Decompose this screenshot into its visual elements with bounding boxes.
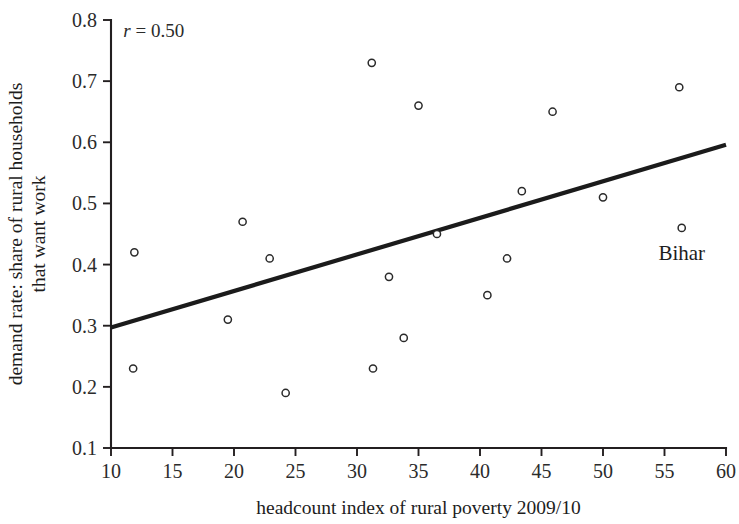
- data-point-4: [266, 255, 273, 262]
- x-tick-label-3: 25: [286, 460, 306, 482]
- data-point-labels: Bihar: [658, 241, 705, 265]
- y-tick-label-4: 0.5: [72, 192, 97, 214]
- data-point-8: [385, 273, 392, 280]
- x-tick-label-8: 50: [593, 460, 613, 482]
- y-tick-label-3: 0.4: [72, 254, 97, 276]
- x-axis-title: headcount index of rural poverty 2009/10: [256, 497, 580, 518]
- data-point-14: [518, 188, 525, 195]
- y-axis-title-line1: demand rate: share of rural households: [5, 83, 26, 386]
- data-point-3: [239, 218, 246, 225]
- data-point-7: [369, 365, 376, 372]
- x-tick-label-1: 15: [163, 460, 183, 482]
- data-point-9: [400, 334, 407, 341]
- data-point-6: [368, 59, 375, 66]
- x-tick-label-2: 20: [224, 460, 244, 482]
- data-point-13: [503, 255, 510, 262]
- x-tick-label-5: 35: [409, 460, 429, 482]
- data-point-17: [676, 84, 683, 91]
- data-point-11: [433, 230, 440, 237]
- data-point-15: [549, 108, 556, 115]
- data-point-5: [282, 389, 289, 396]
- x-tick-labels: 1015202530354045505560: [101, 460, 736, 482]
- data-point-16: [599, 194, 606, 201]
- regression-line: [111, 145, 726, 328]
- y-tick-label-0: 0.1: [72, 437, 97, 459]
- y-tick-label-6: 0.7: [72, 70, 97, 92]
- data-point-0: [131, 249, 138, 256]
- data-point-18: [678, 224, 685, 231]
- scatter-chart-figure: 1015202530354045505560 0.10.20.30.40.50.…: [0, 0, 739, 524]
- annotation-correlation: r = 0.50: [123, 20, 184, 41]
- trendline: [111, 145, 726, 328]
- data-point-1: [130, 365, 137, 372]
- y-axis-title-line2: that want work: [28, 175, 49, 292]
- chart-annotations: r = 0.50: [123, 20, 184, 41]
- x-tick-label-10: 60: [716, 460, 736, 482]
- y-tick-label-2: 0.3: [72, 315, 97, 337]
- plot-canvas: 1015202530354045505560 0.10.20.30.40.50.…: [0, 0, 739, 524]
- data-points: [130, 59, 686, 396]
- x-tick-label-0: 10: [101, 460, 121, 482]
- point-label-bihar: Bihar: [658, 241, 705, 265]
- y-tick-label-1: 0.2: [72, 376, 97, 398]
- y-tick-label-7: 0.8: [72, 9, 97, 31]
- x-tick-label-9: 55: [655, 460, 675, 482]
- y-tick-labels: 0.10.20.30.40.50.60.70.8: [72, 9, 97, 459]
- x-tick-label-7: 45: [532, 460, 552, 482]
- x-tick-label-6: 40: [470, 460, 490, 482]
- y-tick-label-5: 0.6: [72, 131, 97, 153]
- data-point-12: [484, 292, 491, 299]
- x-tick-label-4: 30: [347, 460, 367, 482]
- data-point-10: [415, 102, 422, 109]
- data-point-2: [224, 316, 231, 323]
